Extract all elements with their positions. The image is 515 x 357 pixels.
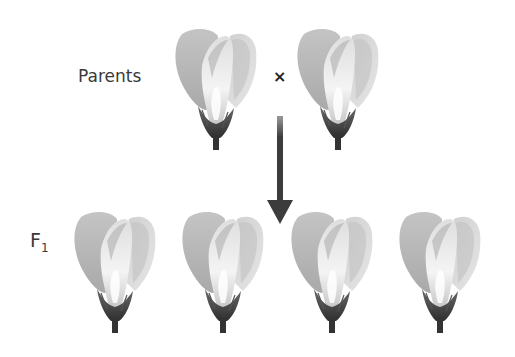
- f1-letter: F: [30, 229, 41, 251]
- f1-subscript: 1: [41, 241, 49, 255]
- f1-flower-3: [288, 209, 376, 333]
- f1-flower-4: [396, 209, 484, 333]
- f1-flower-1: [71, 209, 159, 333]
- cross-symbol: ×: [273, 67, 286, 86]
- f1-flower-2: [179, 209, 267, 333]
- parent-flower-2: [294, 26, 382, 150]
- f1-label: F1: [30, 229, 49, 255]
- parent-flower-1: [172, 26, 260, 150]
- parents-label: Parents: [78, 66, 141, 86]
